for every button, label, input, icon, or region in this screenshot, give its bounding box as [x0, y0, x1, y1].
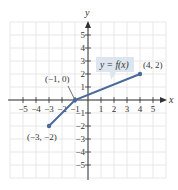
x-tick-label: 2: [112, 104, 117, 114]
y-tick-label: 3: [81, 56, 86, 66]
x-tick-label: −3: [44, 104, 54, 114]
label-point-a: (−3, −2): [27, 132, 57, 142]
y-tick-label: −1: [75, 108, 85, 118]
y-tick-label: 2: [81, 69, 86, 79]
x-tick-label: −4: [31, 104, 41, 114]
y-tick-label: 1: [81, 82, 86, 92]
y-tick-label: −4: [75, 147, 85, 157]
x-tick-label: 4: [138, 104, 143, 114]
x-tick-label: 1: [99, 104, 104, 114]
callout-label: y = f(x): [99, 60, 129, 71]
function-callout: y = f(x): [96, 57, 134, 80]
x-axis-label: x: [168, 94, 174, 105]
y-tick-label: −3: [75, 134, 85, 144]
point-b: [73, 98, 77, 102]
y-tick-label: 4: [81, 43, 86, 53]
y-tick-label: 5: [81, 30, 86, 40]
point-c: [138, 72, 142, 76]
point-a: [47, 124, 51, 128]
y-tick-label: −5: [75, 160, 85, 170]
function-graph: −5−4−3−2−112345−5−4−3−2−112345 x y y = f…: [0, 0, 178, 190]
y-tick-label: −2: [75, 121, 85, 131]
axes: [8, 21, 167, 180]
label-point-b: (−1, 0): [45, 74, 70, 84]
leader-line: [68, 86, 74, 98]
x-tick-label: −5: [18, 104, 28, 114]
x-tick-label: 5: [151, 104, 156, 114]
x-tick-label: 3: [125, 104, 130, 114]
y-axis-label: y: [84, 7, 90, 18]
label-point-c: (4, 2): [143, 60, 163, 70]
